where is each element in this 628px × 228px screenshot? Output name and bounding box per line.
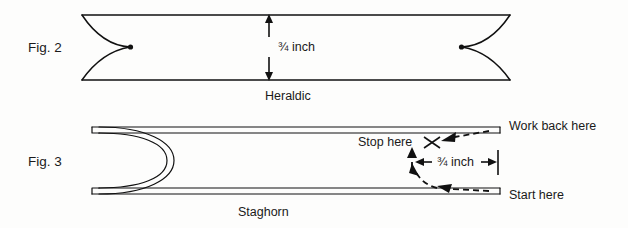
fig3-workback-dash (455, 131, 489, 137)
fig3-label: Fig. 3 (28, 155, 62, 169)
fig3-stop-here-label: Stop here (358, 136, 412, 149)
fig3-start-here-label: Start here (509, 189, 564, 202)
fig3-starthere-dash-1 (450, 189, 489, 191)
fig3-measurement-label: ¾ inch (437, 156, 474, 169)
fig3-bottom-left-cap (92, 188, 99, 194)
fig2-right-lower-curve (462, 47, 510, 80)
fig2-right-point-dot (459, 44, 464, 49)
arrow-up-left-icon (409, 163, 419, 176)
fig2-right-upper-curve (462, 15, 510, 47)
fig3-starthere-leader (407, 147, 489, 193)
fig3-caption: Staghorn (238, 206, 289, 219)
fig2-left-upper-curve (82, 15, 130, 47)
diagram-page: Fig. 2 ¾ inch Heraldic Fig. 3 Stop here … (0, 0, 628, 228)
fig3-starthere-dash-2 (416, 172, 437, 188)
fig2-dimension-arrow (265, 14, 273, 81)
arrow-left-icon-dim (415, 158, 424, 166)
fig2-left-point-dot (128, 44, 133, 49)
fig2-left-lower-curve (82, 47, 130, 80)
fig2-label: Fig. 2 (28, 41, 62, 55)
fig3-top-left-cap (92, 127, 99, 133)
x-mark-icon (424, 137, 440, 148)
fig3-loop-outer-arc (99, 133, 167, 188)
fig3-work-back-here-label: Work back here (509, 120, 596, 133)
arrow-right-icon-dim (488, 158, 497, 166)
fig2-caption: Heraldic (265, 90, 311, 103)
fig2-measurement-label: ¾ inch (278, 41, 315, 54)
